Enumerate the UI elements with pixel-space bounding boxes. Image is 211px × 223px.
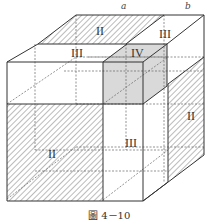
shaded-cube-front [103,62,143,104]
figure-caption: 圖 4－10 [88,210,130,221]
cube-decomposition-diagram: a b II III III IV II III II 圖 4－10 [0,0,211,223]
hatched-right-side [168,57,204,182]
dimension-label-b: b [185,1,191,11]
region-label-front-lower-left: II [48,147,56,161]
region-label-top-mid: III [71,46,83,60]
region-label-cube-top: IV [131,46,144,60]
region-label-top-back-left: II [96,24,104,38]
region-label-top-back-right: III [159,27,171,41]
region-label-front-lower-right: III [125,136,137,150]
dimension-label-a: a [121,1,126,11]
region-label-right-side: II [187,109,195,123]
